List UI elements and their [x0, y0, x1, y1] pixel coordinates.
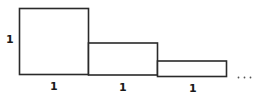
width-label-2: 1	[119, 81, 127, 94]
rectangle-1	[20, 9, 89, 75]
rectangle-2	[89, 43, 158, 75]
width-label-3: 1	[189, 82, 197, 95]
width-label-1: 1	[50, 80, 58, 93]
height-label: 1	[6, 33, 14, 46]
rectangle-3	[158, 61, 227, 77]
halving-rectangles-diagram: 1 1 1 1	[0, 0, 254, 95]
ellipsis-icon	[238, 77, 252, 79]
